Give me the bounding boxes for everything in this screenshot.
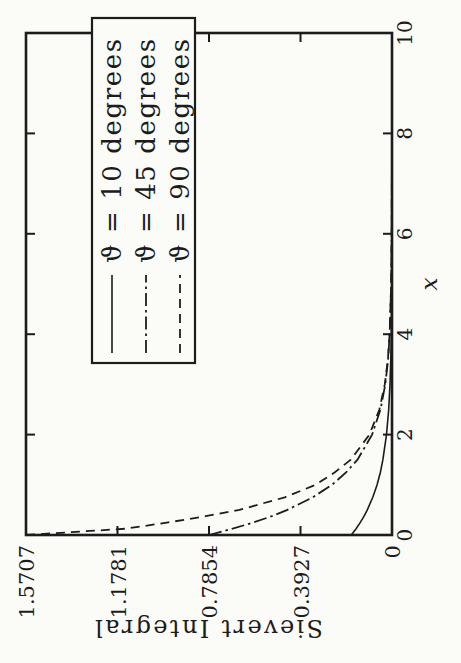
x-tick-label: 6 (393, 227, 417, 240)
y-tick-label: 0.7854 (198, 545, 222, 618)
y-tick-label: 1.5707 (15, 545, 39, 618)
legend-label-10deg: ϑ = 10 degrees (97, 39, 127, 263)
legend-label-45deg: ϑ = 45 degrees (131, 39, 161, 263)
legend: ϑ = 10 degrees ϑ = 45 degrees ϑ = 90 deg… (92, 18, 195, 363)
x-tick-label: 2 (393, 428, 417, 441)
x-tick-label: 4 (393, 328, 417, 341)
y-tick-label: 0 (381, 545, 405, 558)
x-tick-labels: 0 2 4 6 8 10 (393, 20, 417, 541)
curve-group (26, 33, 392, 535)
sievert-integral-chart: 0 0.3927 0.7854 1.1781 1.5707 0 2 4 6 8 … (0, 0, 461, 663)
x-tick-label: 0 (393, 529, 417, 542)
axis-tick-group (26, 33, 392, 535)
y-tick-labels: 0 0.3927 0.7854 1.1781 1.5707 (15, 545, 405, 618)
legend-label-90deg: ϑ = 90 degrees (165, 39, 195, 263)
curve-45deg (209, 33, 392, 535)
curve-90deg (26, 33, 392, 535)
y-tick-label: 1.1781 (107, 545, 131, 618)
scanned-figure-page: 0 0.3927 0.7854 1.1781 1.5707 0 2 4 6 8 … (0, 0, 461, 663)
plot-frame (26, 33, 392, 535)
rotated-figure-canvas: 0 0.3927 0.7854 1.1781 1.5707 0 2 4 6 8 … (0, 0, 461, 663)
x-tick-label: 8 (393, 127, 417, 140)
y-tick-label: 0.3927 (290, 545, 314, 618)
x-tick-label: 10 (393, 20, 417, 45)
y-axis-title: Sievert Integral (95, 614, 323, 642)
x-axis-title: x (416, 277, 442, 290)
